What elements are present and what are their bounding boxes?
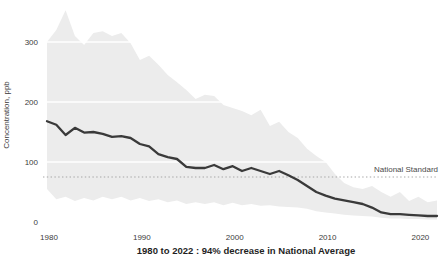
x-tick-2010: 2010 bbox=[319, 233, 337, 242]
y-tick-0: 0 bbox=[34, 218, 39, 227]
y-tick-300: 300 bbox=[25, 38, 39, 47]
y-axis-tick-labels: 0100200300 bbox=[25, 38, 39, 227]
chart-figure: 0100200300 19801990200020102020 Concentr… bbox=[0, 0, 442, 263]
x-axis-tick-labels: 19801990200020102020 bbox=[40, 233, 430, 242]
x-tick-2020: 2020 bbox=[412, 233, 430, 242]
y-axis-label: Concentration, ppb bbox=[2, 81, 11, 149]
x-tick-1990: 1990 bbox=[133, 233, 151, 242]
national-standard-label: National Standard bbox=[374, 165, 438, 174]
y-tick-100: 100 bbox=[25, 158, 39, 167]
chart-title: 1980 to 2022 : 94% decrease in National … bbox=[137, 245, 355, 256]
x-tick-1980: 1980 bbox=[40, 233, 58, 242]
concentration-trend-chart: 0100200300 19801990200020102020 Concentr… bbox=[0, 0, 442, 263]
y-tick-200: 200 bbox=[25, 98, 39, 107]
x-tick-2000: 2000 bbox=[226, 233, 244, 242]
